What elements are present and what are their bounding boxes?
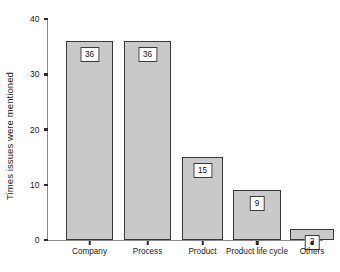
x-tick bbox=[146, 241, 149, 245]
y-tick-label-30: 30 bbox=[30, 69, 39, 79]
bar-value-label: 36 bbox=[80, 47, 99, 62]
x-tick bbox=[311, 241, 314, 245]
bar bbox=[66, 41, 113, 240]
x-tick bbox=[201, 241, 204, 245]
bar-value-label: 36 bbox=[138, 47, 157, 62]
bar-chart: Times issues were mentioned 010203040 36… bbox=[0, 0, 340, 272]
x-tick-label: Product bbox=[188, 247, 216, 256]
plot-area: 010203040 36361592 CompanyProcessProduct… bbox=[47, 19, 323, 241]
y-tick-label-20: 20 bbox=[30, 125, 39, 135]
y-tick-label-40: 40 bbox=[30, 14, 39, 24]
y-tick-20: 20 bbox=[44, 128, 48, 131]
x-tick-label: Others bbox=[300, 247, 325, 256]
bar bbox=[124, 41, 171, 240]
x-tick bbox=[88, 241, 91, 245]
y-tick-40: 40 bbox=[44, 18, 48, 21]
y-tick-10: 10 bbox=[44, 184, 48, 187]
x-tick-label: Company bbox=[72, 247, 107, 256]
bar-value-label: 15 bbox=[193, 163, 212, 178]
y-axis-title: Times issues were mentioned bbox=[0, 0, 18, 272]
x-tick-label: Product life cycle bbox=[226, 247, 288, 256]
y-tick-label-10: 10 bbox=[30, 180, 39, 190]
y-tick-30: 30 bbox=[44, 73, 48, 76]
x-tick bbox=[256, 241, 259, 245]
x-tick-label: Process bbox=[133, 247, 163, 256]
y-tick-0: 0 bbox=[44, 239, 48, 242]
y-tick-label-0: 0 bbox=[35, 235, 40, 245]
bar-value-label: 9 bbox=[250, 196, 265, 211]
